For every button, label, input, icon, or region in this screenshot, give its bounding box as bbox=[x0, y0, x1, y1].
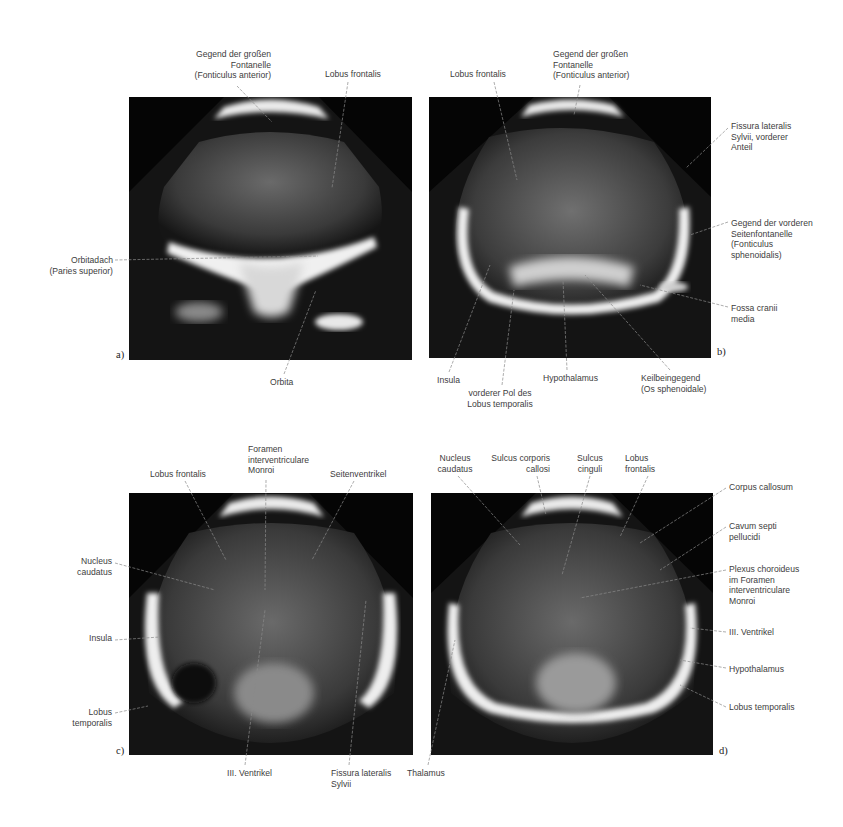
label-fontanelle-b: Gegend der großen Fontanelle (Fonticulus… bbox=[553, 49, 629, 81]
label-orbita-a: Orbita bbox=[270, 377, 293, 388]
label-cavum-d: Cavum septi pellucidi bbox=[729, 521, 777, 542]
ultrasound-panel-a bbox=[129, 97, 412, 360]
label-lobus-frontalis-c: Lobus frontalis bbox=[150, 469, 206, 480]
label-fontanelle-a: Gegend der großen Fontanelle (Fonticulus… bbox=[185, 49, 271, 81]
label-lobus-frontalis-a: Lobus frontalis bbox=[325, 69, 381, 80]
label-ventrikel3-d: III. Ventrikel bbox=[729, 627, 774, 638]
leader-lines bbox=[0, 0, 843, 827]
ultrasound-panel-b bbox=[429, 97, 711, 358]
label-lobus-temporalis-c: Lobus temporalis bbox=[60, 707, 112, 728]
label-orbitadach-a: Orbitadach (Paries superior) bbox=[35, 255, 113, 276]
label-plexus-d: Plexus choroideus im Foramen interventri… bbox=[729, 564, 799, 606]
panel-label-d: d) bbox=[719, 745, 728, 756]
ultrasound-panel-d bbox=[431, 493, 713, 755]
label-keilbein-b: Keilbeingegend (Os sphenoidale) bbox=[641, 373, 706, 394]
label-sulcus-cinguli-d: Sulcus cinguli bbox=[570, 453, 610, 474]
label-lobus-temporalis-d: Lobus temporalis bbox=[729, 702, 794, 713]
ultrasound-image-a bbox=[129, 97, 412, 360]
panel-label-a: a) bbox=[116, 349, 124, 360]
label-foramen-c: Foramen interventriculare Monroi bbox=[248, 444, 309, 476]
label-lobus-frontalis-d: Lobus frontalis bbox=[625, 453, 655, 474]
label-ventrikel3-c: III. Ventrikel bbox=[227, 768, 272, 779]
label-fossa-b: Fossa cranii media bbox=[731, 303, 777, 324]
label-sulcus-corporis-d: Sulcus corporis callosi bbox=[480, 453, 550, 474]
label-corpus-d: Corpus callosum bbox=[729, 482, 793, 493]
label-hypothalamus-d: Hypothalamus bbox=[729, 664, 784, 675]
panel-label-b: b) bbox=[717, 346, 726, 357]
ultrasound-image-d bbox=[431, 493, 713, 755]
label-hypothalamus-b: Hypothalamus bbox=[543, 373, 598, 384]
ultrasound-image-c bbox=[129, 493, 413, 755]
label-nucleus-c: Nucleus caudatus bbox=[60, 556, 112, 577]
label-thalamus-d: Thalamus bbox=[407, 768, 445, 779]
label-seitenfontanelle-b: Gegend der vorderen Seitenfontanelle (Fo… bbox=[731, 218, 813, 260]
ultrasound-panel-c bbox=[129, 493, 413, 755]
label-fissura-c: Fissura lateralis Sylvii bbox=[331, 768, 391, 789]
label-seitenventrikel-c: Seitenventrikel bbox=[330, 469, 386, 480]
label-insula-c: Insula bbox=[60, 633, 112, 644]
label-lobus-frontalis-b: Lobus frontalis bbox=[450, 69, 506, 80]
label-nucleus-d: Nucleus caudatus bbox=[430, 453, 480, 474]
label-insula-b: Insula bbox=[437, 375, 460, 386]
label-fissura-b: Fissura lateralis Sylvii, vorderer Antei… bbox=[731, 121, 791, 153]
panel-label-c: c) bbox=[116, 745, 124, 756]
label-pol-b: vorderer Pol des Lobus temporalis bbox=[460, 388, 540, 409]
ultrasound-image-b bbox=[429, 97, 711, 358]
